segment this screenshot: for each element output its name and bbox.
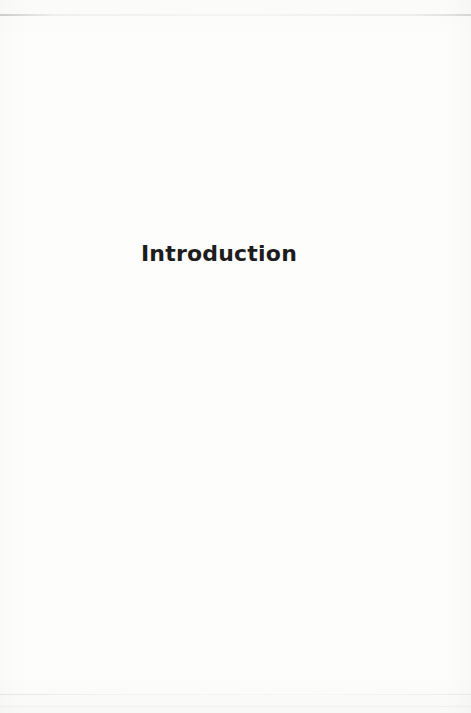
scan-edge-bottom-line bbox=[0, 694, 471, 696]
scan-edge-top-line bbox=[0, 14, 471, 16]
scan-edge-bottom-line-2 bbox=[0, 706, 471, 707]
page-title: Introduction bbox=[0, 241, 438, 266]
book-page: Introduction bbox=[0, 0, 471, 713]
paper-vignette bbox=[0, 0, 471, 713]
